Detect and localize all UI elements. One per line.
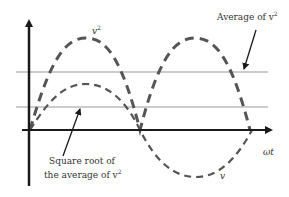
rms-label-line2: the average of v2 xyxy=(44,168,122,180)
average-pointer-arrow-icon xyxy=(244,30,256,69)
v-label: v xyxy=(220,171,225,181)
v-squared-curve xyxy=(30,38,250,130)
rms-pointer-arrow-icon xyxy=(63,109,80,156)
omega-t-axis-label: ωt xyxy=(263,147,274,157)
v-squared-label: v2 xyxy=(92,24,101,36)
rms-label-line1: Square root of xyxy=(49,156,116,166)
average-of-v-squared-label: Average of v2 xyxy=(216,10,278,22)
waveform-diagram: v2 Average of v2 Square root of the aver… xyxy=(0,0,289,197)
